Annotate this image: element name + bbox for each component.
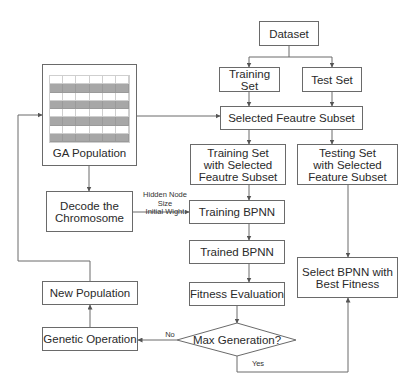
training-set-node: Training Set (219, 67, 280, 92)
selected-feature-subset-node: Selected Feautre Subset (220, 106, 363, 130)
test-set-node: Test Set (302, 67, 362, 92)
initial-weight-label: Initial Wight (140, 208, 190, 216)
node-line: with Selected (204, 159, 272, 171)
ga-population-label: GA Population (53, 147, 127, 159)
new-population-node: New Population (42, 281, 138, 305)
trained-bpnn-node: Trained BPNN (189, 240, 285, 264)
node-line: Testing Set (319, 147, 376, 159)
genetic-operation-node: Genetic Operation (42, 327, 138, 351)
max-generation-decision: Max Generation? (187, 334, 287, 346)
node-line: Chromosome (55, 212, 124, 224)
hidden-node-label: Hidden Node (140, 191, 190, 199)
node-line: Training Set (207, 147, 269, 159)
node-line: Select BPNN with (302, 266, 393, 278)
node-line: Feautre Subset (199, 171, 278, 183)
population-grid-icon (49, 75, 130, 143)
node-line: with Selected (313, 159, 381, 171)
dataset-node: Dataset (259, 21, 319, 46)
node-line: Feature Subset (308, 171, 387, 183)
select-best-bpnn-node: Select BPNN with Best Fitness (297, 257, 398, 298)
yes-label: Yes (250, 360, 266, 368)
node-line: Best Fitness (316, 278, 379, 290)
fitness-evaluation-node: Fitness Evaluation (189, 282, 285, 306)
decode-chromosome-node: Decode the Chromosome (46, 191, 133, 232)
node-line: Decode the (60, 200, 119, 212)
training-set-selected-subset-node: Training Set with Selected Feautre Subse… (190, 144, 286, 185)
training-bpnn-node: Training BPNN (189, 200, 285, 224)
testing-set-selected-subset-node: Testing Set with Selected Feature Subset (297, 144, 398, 185)
no-label: No (162, 331, 178, 339)
